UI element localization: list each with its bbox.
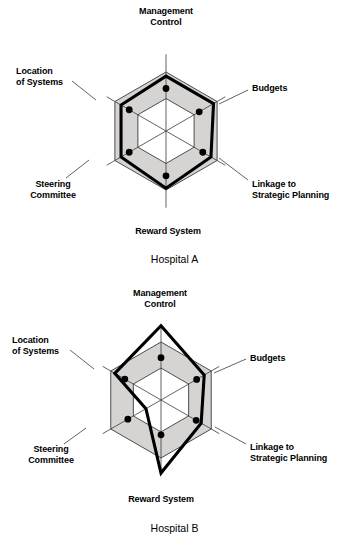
leader-line-steering_committee	[66, 160, 89, 178]
axis-label-steering-committee: Steering Committee	[12, 444, 90, 465]
axis-label-steering-committee: Steering Committee	[14, 179, 92, 200]
axis-label-management-control: Management Control	[128, 6, 204, 27]
leader-line-steering_committee	[64, 428, 86, 444]
data-marker-linkage	[199, 149, 206, 156]
radar-plot-area-hospital-b	[0, 276, 349, 552]
data-marker-budgets	[193, 376, 200, 383]
data-marker-reward_system	[163, 172, 170, 179]
leader-line-linkage	[219, 158, 248, 180]
axis-label-location-of-systems: Location of Systems	[16, 66, 94, 87]
axis-label-location-of-systems: Location of Systems	[12, 335, 90, 356]
data-marker-budgets	[196, 108, 203, 115]
chart-caption-hospital-b: Hospital B	[0, 522, 349, 534]
data-marker-reward_system	[158, 431, 165, 438]
data-marker-management_control	[163, 85, 170, 92]
radar-chart-hospital-a: Management Control Budgets Linkage to St…	[0, 0, 349, 276]
axis-label-reward-system: Reward System	[106, 494, 216, 505]
data-marker-steering_committee	[126, 149, 133, 156]
leader-line-budgets	[214, 359, 246, 373]
data-marker-location_of_systems	[126, 106, 133, 113]
axis-label-linkage-to-strategic-planning: Linkage to Strategic Planning	[252, 179, 348, 200]
data-marker-location_of_systems	[121, 376, 128, 383]
axis-label-budgets: Budgets	[250, 353, 320, 364]
data-marker-steering_committee	[124, 416, 131, 423]
axis-label-management-control: Management Control	[122, 288, 198, 309]
leader-line-budgets	[219, 90, 248, 104]
data-marker-linkage	[193, 417, 200, 424]
axis-label-budgets: Budgets	[252, 83, 322, 94]
chart-caption-hospital-a: Hospital A	[0, 253, 349, 265]
axis-label-reward-system: Reward System	[113, 226, 223, 237]
figure-page: Management Control Budgets Linkage to St…	[0, 0, 349, 552]
radar-chart-hospital-b: Management Control Budgets Linkage to St…	[0, 276, 349, 552]
data-marker-management_control	[158, 354, 165, 361]
leader-line-linkage	[215, 427, 246, 444]
axis-label-linkage-to-strategic-planning: Linkage to Strategic Planning	[250, 442, 346, 463]
